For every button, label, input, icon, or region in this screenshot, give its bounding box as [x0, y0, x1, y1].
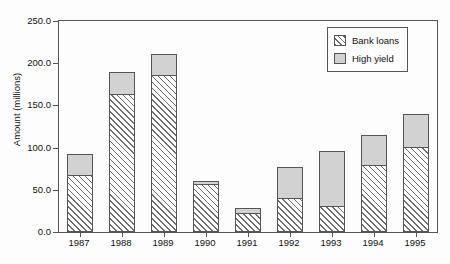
bar-slot: [67, 21, 93, 232]
bar-slot: [109, 21, 135, 232]
stacked-bar[interactable]: [151, 54, 177, 232]
stacked-bar[interactable]: [361, 135, 387, 232]
bar-segment-high-yield[interactable]: [403, 114, 429, 147]
stacked-bar[interactable]: [67, 154, 93, 232]
y-tick-label: 50.0: [3, 184, 51, 195]
y-tick-label: 100.0: [3, 142, 51, 153]
chart-legend: Bank loans High yield: [327, 27, 408, 72]
stacked-bar[interactable]: [109, 72, 135, 232]
bar-segment-bank-loans[interactable]: [235, 213, 261, 232]
bar-segment-bank-loans[interactable]: [277, 198, 303, 232]
legend-label-bank-loans: Bank loans: [352, 35, 399, 46]
bar-chart-figure: Amount (millions) 0.050.0100.0150.0200.0…: [0, 0, 450, 264]
bar-segment-bank-loans[interactable]: [193, 184, 219, 232]
legend-swatch-bank-loans-icon: [334, 35, 346, 46]
bar-segment-high-yield[interactable]: [109, 72, 135, 95]
bar-segment-bank-loans[interactable]: [403, 147, 429, 232]
y-tick-label: 150.0: [3, 99, 51, 110]
stacked-bar[interactable]: [193, 181, 219, 232]
legend-item-bank-loans: Bank loans: [334, 33, 399, 48]
stacked-bar[interactable]: [277, 167, 303, 232]
legend-item-high-yield: High yield: [334, 51, 399, 66]
stacked-bar[interactable]: [319, 151, 345, 232]
bar-segment-bank-loans[interactable]: [109, 94, 135, 232]
bar-segment-high-yield[interactable]: [151, 54, 177, 75]
bar-segment-high-yield[interactable]: [361, 135, 387, 165]
bar-segment-bank-loans[interactable]: [151, 75, 177, 232]
stacked-bar[interactable]: [403, 114, 429, 232]
bar-segment-high-yield[interactable]: [277, 167, 303, 198]
stacked-bar[interactable]: [235, 208, 261, 232]
bar-slot: [235, 21, 261, 232]
legend-label-high-yield: High yield: [352, 53, 394, 64]
y-tick-label: 250.0: [3, 15, 51, 26]
bar-segment-high-yield[interactable]: [67, 154, 93, 176]
legend-swatch-high-yield-icon: [334, 53, 346, 64]
bar-slot: [151, 21, 177, 232]
bar-segment-high-yield[interactable]: [319, 151, 345, 206]
bar-segment-bank-loans[interactable]: [319, 206, 345, 232]
bar-slot: [193, 21, 219, 232]
x-tick-label: 1995: [390, 237, 440, 248]
bar-segment-bank-loans[interactable]: [361, 165, 387, 232]
y-tick-label: 200.0: [3, 57, 51, 68]
y-tick-mark: [53, 232, 59, 233]
bar-slot: [277, 21, 303, 232]
bar-segment-bank-loans[interactable]: [67, 175, 93, 232]
y-tick-label: 0.0: [3, 226, 51, 237]
